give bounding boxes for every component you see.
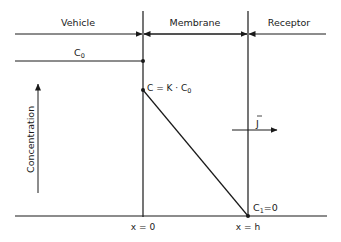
flux-label: J <box>255 118 259 129</box>
c0-point <box>141 59 145 63</box>
y-axis-label: Concentration <box>25 106 36 173</box>
xh-label: x = h <box>236 222 260 232</box>
region-label-vehicle: Vehicle <box>61 17 95 28</box>
x0-label: x = 0 <box>131 222 156 232</box>
concentration-gradient-line <box>143 90 248 216</box>
c-surface-label: C = K · C0 <box>147 83 191 95</box>
c1-label: C1=0 <box>253 202 278 215</box>
diffusion-diagram: Vehicle Membrane Receptor C0 C = K · C0 … <box>0 0 341 242</box>
region-label-membrane: Membrane <box>170 17 221 28</box>
c1-point <box>246 214 250 218</box>
region-label-receptor: Receptor <box>268 17 311 28</box>
c0-label: C0 <box>74 47 85 60</box>
